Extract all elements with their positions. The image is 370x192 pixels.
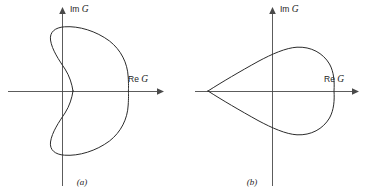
panel-b-caption: (b) bbox=[247, 177, 258, 187]
panel-b-re-symbol: G bbox=[337, 74, 344, 84]
panel-a-re-symbol: G bbox=[141, 74, 148, 84]
panel-b-imaginary-axis-arrowhead bbox=[269, 7, 276, 14]
panel-a-im-symbol: G bbox=[82, 4, 89, 14]
panel-a-caption: (a) bbox=[77, 177, 88, 187]
panel-a-im-prefix: Im bbox=[70, 4, 79, 14]
panel-b-real-axis-label: Re G bbox=[324, 74, 344, 84]
panel-a-imaginary-axis bbox=[59, 7, 66, 186]
panel-b: Im G Re G (b) bbox=[195, 4, 359, 187]
panel-a-real-axis-label: Re G bbox=[128, 74, 148, 84]
panel-a: Im G Re G (a) bbox=[8, 4, 164, 187]
panel-a-real-axis bbox=[8, 88, 164, 95]
panel-b-re-prefix: Re bbox=[324, 74, 335, 84]
panel-a-imaginary-axis-label: Im G bbox=[70, 4, 89, 14]
panel-b-imaginary-axis-label: Im G bbox=[280, 4, 299, 14]
panel-b-im-symbol: G bbox=[292, 4, 299, 14]
polar-plot-figure: Im G Re G (a) Im G Re G bbox=[0, 0, 370, 192]
panel-a-real-axis-arrowhead bbox=[157, 88, 164, 95]
figure-container: Im G Re G (a) Im G Re G bbox=[0, 0, 370, 192]
panel-b-imaginary-axis bbox=[269, 7, 276, 186]
panel-b-im-prefix: Im bbox=[280, 4, 289, 14]
panel-a-re-prefix: Re bbox=[128, 74, 139, 84]
panel-a-imaginary-axis-arrowhead bbox=[59, 7, 66, 14]
panel-b-locus-curve bbox=[208, 47, 334, 135]
panel-b-real-axis-arrowhead bbox=[352, 88, 359, 95]
